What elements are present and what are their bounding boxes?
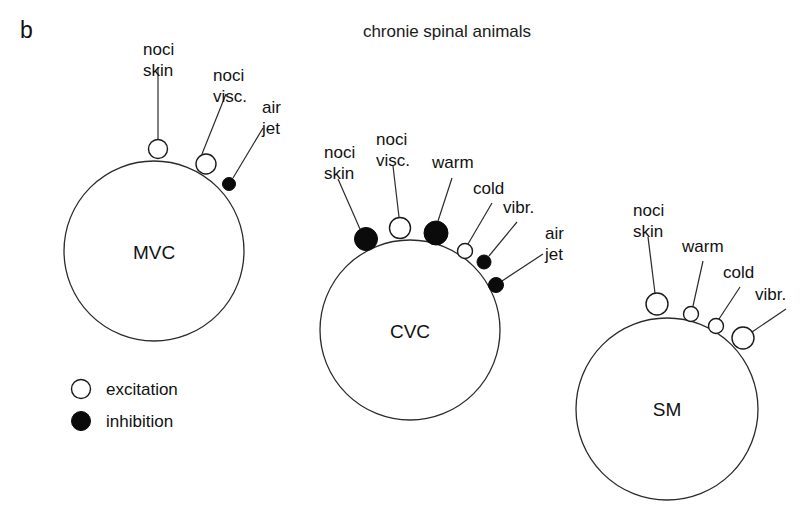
marker-label-cvc-vibr: vibr. [503,198,534,217]
group-name-cvc: CVC [390,321,430,342]
marker-label-line: visc. [213,87,247,106]
marker-label-line: noci [376,130,407,149]
figure-panel-b: b chronie spinal animals MVCnociskinnoci… [0,0,810,507]
marker-label-sm-cold: cold [723,263,754,282]
panel-label: b [20,17,33,43]
marker-cvc-air-jet[interactable] [489,278,504,293]
marker-label-line: warm [681,237,724,256]
marker-label-line: jet [544,245,563,264]
marker-mvc-noci-visc[interactable] [196,154,216,174]
marker-label-line: vibr. [755,285,786,304]
legend-label-excitation: excitation [106,380,178,399]
group-name-sm: SM [653,399,682,420]
marker-label-line: noci [213,66,244,85]
marker-label-line: skin [143,61,173,80]
diagram-canvas: b chronie spinal animals MVCnociskinnoci… [0,0,810,507]
marker-sm-cold[interactable] [709,319,724,334]
marker-cvc-cold[interactable] [458,244,473,259]
marker-cvc-warm[interactable] [424,221,448,245]
marker-label-line: vibr. [503,198,534,217]
marker-label-line: skin [633,222,663,241]
marker-label-line: jet [261,119,280,138]
marker-label-line: visc. [376,151,410,170]
marker-label-line: warm [431,153,474,172]
marker-label-sm-vibr: vibr. [755,285,786,304]
marker-sm-warm[interactable] [684,307,699,322]
marker-label-line: air [545,224,564,243]
marker-cvc-noci-visc[interactable] [390,218,411,239]
marker-label-sm-warm: warm [681,237,724,256]
legend-label-inhibition: inhibition [106,412,173,431]
marker-label-line: cold [473,179,504,198]
marker-cvc-vibr[interactable] [477,255,491,269]
legend-symbol-inhibition [72,412,91,431]
marker-label-line: noci [633,201,664,220]
marker-label-line: skin [324,164,354,183]
marker-label-cvc-warm: warm [431,153,474,172]
marker-mvc-noci-skin[interactable] [149,140,168,159]
marker-label-line: air [262,98,281,117]
figure-title: chronie spinal animals [363,22,531,41]
marker-label-line: noci [143,40,174,59]
marker-label-line: cold [723,263,754,282]
marker-label-cvc-cold: cold [473,179,504,198]
marker-sm-noci-skin[interactable] [646,293,668,315]
marker-mvc-air-jet[interactable] [223,178,236,191]
marker-label-line: noci [324,143,355,162]
group-name-mvc: MVC [133,242,175,263]
legend-symbol-excitation [72,380,91,399]
marker-sm-vibr[interactable] [732,327,754,349]
marker-cvc-noci-skin[interactable] [355,228,378,251]
